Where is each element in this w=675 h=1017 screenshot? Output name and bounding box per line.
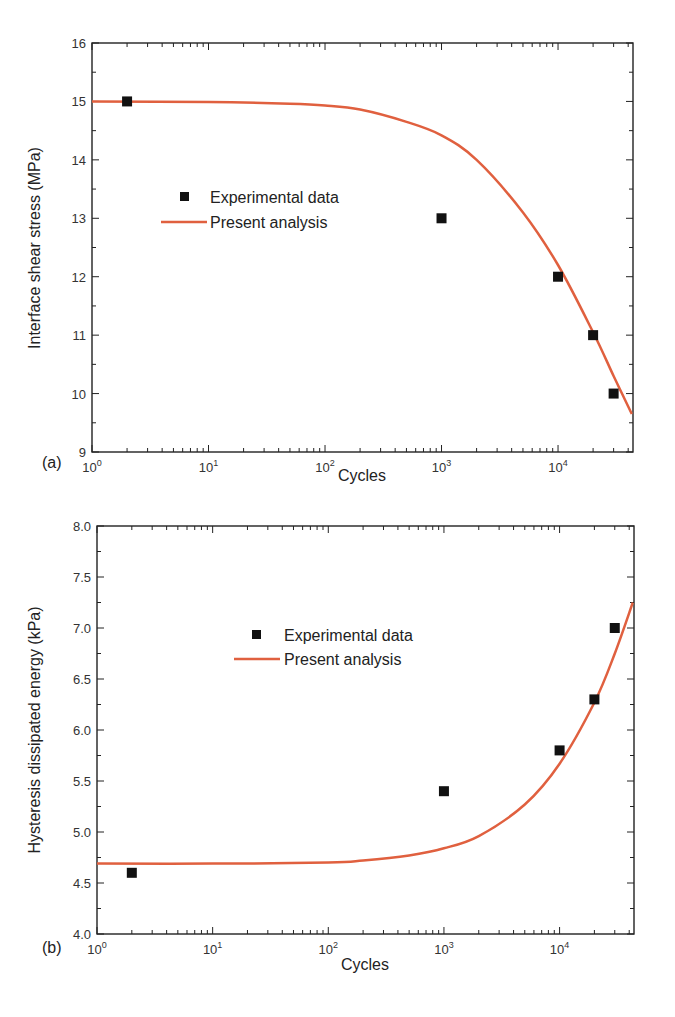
y-tick-label: 5.0 (73, 825, 91, 840)
x-tick-label: 102 (319, 940, 338, 957)
legend-label-experimental: Experimental data (210, 189, 339, 206)
experimental-data-point (439, 786, 449, 796)
y-tick-label: 10 (72, 387, 86, 402)
y-tick-label: 11 (73, 328, 87, 343)
x-tick-label: 100 (82, 458, 101, 475)
y-tick-label: 6.5 (73, 672, 91, 687)
y-tick-label: 7.5 (73, 570, 91, 585)
x-tick-label: 103 (432, 458, 451, 475)
x-tick-label: 103 (434, 940, 453, 957)
x-axis-title-a: Cycles (338, 467, 386, 484)
experimental-data-point (122, 96, 132, 106)
chart-panel-a: 100101102103104910111213141516 Interface… (26, 36, 633, 484)
axes-frame-b: 1001011021031044.04.55.05.56.06.57.07.58… (73, 519, 634, 957)
experimental-data-point (589, 694, 599, 704)
experimental-data-point (609, 389, 619, 399)
experimental-data-point (127, 868, 137, 878)
x-tick-label: 104 (548, 458, 567, 475)
y-tick-label: 4.0 (73, 927, 91, 942)
panel-label-a: (a) (42, 454, 62, 471)
experimental-data-point (437, 213, 447, 223)
x-tick-label: 101 (199, 458, 218, 475)
y-tick-label: 5.5 (73, 774, 91, 789)
markers-experimental-a (122, 96, 619, 398)
x-tick-label: 101 (203, 940, 222, 957)
y-tick-label: 13 (72, 211, 86, 226)
legend-marker-icon (252, 630, 261, 639)
y-tick-label: 16 (72, 36, 86, 51)
experimental-data-point (610, 623, 620, 633)
curve-present-analysis-a (92, 101, 632, 414)
plot-frame (97, 526, 634, 934)
panel-label-b: (b) (42, 939, 62, 956)
y-tick-label: 9 (79, 445, 86, 460)
legend-label-analysis: Present analysis (210, 214, 327, 231)
chart-panel-b: 1001011021031044.04.55.05.56.06.57.07.58… (26, 519, 634, 973)
plot-frame (92, 43, 633, 452)
y-tick-label: 6.0 (73, 723, 91, 738)
experimental-data-point (588, 330, 598, 340)
x-tick-label: 100 (87, 940, 106, 957)
y-axis-title-a: Interface shear stress (MPa) (26, 147, 43, 349)
experimental-data-point (555, 745, 565, 755)
x-tick-label: 102 (315, 458, 334, 475)
x-tick-label: 104 (550, 940, 569, 957)
legend-marker-icon (180, 192, 189, 201)
y-tick-label: 4.5 (73, 876, 91, 891)
y-tick-label: 15 (72, 94, 86, 109)
y-axis-title-b: Hysteresis dissipated energy (kPa) (26, 606, 43, 853)
legend-b: Experimental data Present analysis (234, 627, 413, 668)
y-tick-label: 12 (72, 270, 86, 285)
experimental-data-point (553, 272, 563, 282)
y-tick-label: 8.0 (73, 519, 91, 534)
legend-label-experimental: Experimental data (284, 627, 413, 644)
legend-a: Experimental data Present analysis (161, 189, 339, 231)
legend-label-analysis: Present analysis (284, 651, 401, 668)
y-tick-label: 14 (72, 153, 86, 168)
y-tick-label: 7.0 (73, 621, 91, 636)
figure: 100101102103104910111213141516 Interface… (0, 0, 675, 1017)
x-axis-title-b: Cycles (341, 956, 389, 973)
present-analysis-line (92, 101, 632, 414)
